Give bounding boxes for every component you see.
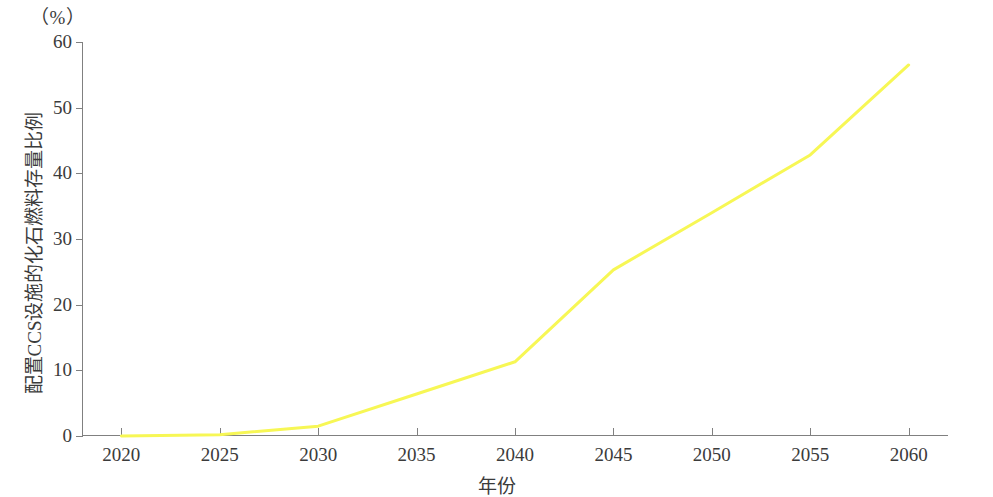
x-axis-tick-label: 2050 <box>693 444 731 466</box>
x-axis-tick-label: 2025 <box>201 444 239 466</box>
chart-svg <box>82 42 952 442</box>
y-axis-tick-label: 10 <box>53 359 72 381</box>
chart-figure: （%） 配置CCS设施的化石燃料存量比例 0102030405060 20202… <box>0 0 993 497</box>
y-axis-tick-label: 40 <box>53 162 72 184</box>
y-axis-tick-label: 30 <box>53 228 72 250</box>
x-axis-tick-labels: 202020252030203520402045205020552060 <box>82 444 952 470</box>
x-axis-tick-label: 2055 <box>791 444 829 466</box>
data-line-series-0 <box>121 65 908 436</box>
plot-area <box>82 42 940 436</box>
axis-spines <box>82 42 948 436</box>
x-axis-tick-label: 2045 <box>594 444 632 466</box>
x-axis-title: 年份 <box>0 471 993 497</box>
y-axis-tick-label: 60 <box>53 31 72 53</box>
x-axis-tick-label: 2030 <box>299 444 337 466</box>
y-axis-tick-label: 50 <box>53 97 72 119</box>
y-axis-unit-label: （%） <box>30 2 85 29</box>
y-axis-ticks <box>76 43 83 437</box>
y-axis-tick-label: 0 <box>63 425 73 447</box>
y-axis-tick-labels: 0102030405060 <box>28 42 72 436</box>
y-axis-tick-label: 20 <box>53 294 72 316</box>
x-axis-tick-label: 2035 <box>398 444 436 466</box>
x-axis-tick-label: 2040 <box>496 444 534 466</box>
x-axis-tick-label: 2060 <box>890 444 928 466</box>
x-axis-tick-label: 2020 <box>102 444 140 466</box>
